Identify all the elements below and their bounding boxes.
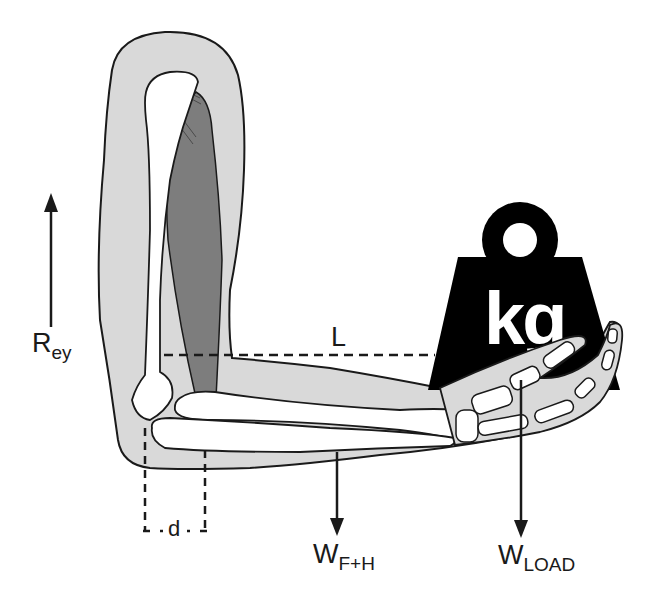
reaction-force-label: Rey — [32, 330, 72, 357]
load-weight-subscript: LOAD — [523, 554, 575, 575]
reaction-force-arrow — [44, 193, 58, 327]
moment-arm-d-text: d — [168, 516, 180, 541]
forearm-hand-weight-label: WF+H — [313, 541, 375, 568]
moment-arm-d-label: d — [168, 518, 180, 540]
forearm-hand-weight-arrow — [330, 452, 344, 536]
arm-lever-diagram: kg — [0, 0, 653, 592]
forearm-hand-weight-symbol: W — [313, 539, 338, 569]
reaction-force-subscript: ey — [52, 342, 72, 363]
load-weight-symbol: W — [498, 540, 523, 570]
load-weight-label: WLOAD — [498, 542, 575, 569]
reaction-force-symbol: R — [32, 328, 52, 358]
forearm-hand-weight-subscript: F+H — [338, 553, 374, 574]
lever-arm-l-text: L — [331, 322, 346, 352]
lever-arm-l-label: L — [331, 324, 346, 351]
